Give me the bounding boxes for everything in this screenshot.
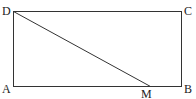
geometry-figure: D C A B M [0, 0, 196, 99]
label-a: A [2, 82, 11, 96]
label-b: B [184, 82, 192, 96]
label-d: D [2, 4, 11, 18]
rectangle-abcd [14, 12, 182, 87]
label-c: C [184, 4, 192, 18]
label-m: M [141, 87, 152, 99]
segment-dm [14, 12, 151, 87]
